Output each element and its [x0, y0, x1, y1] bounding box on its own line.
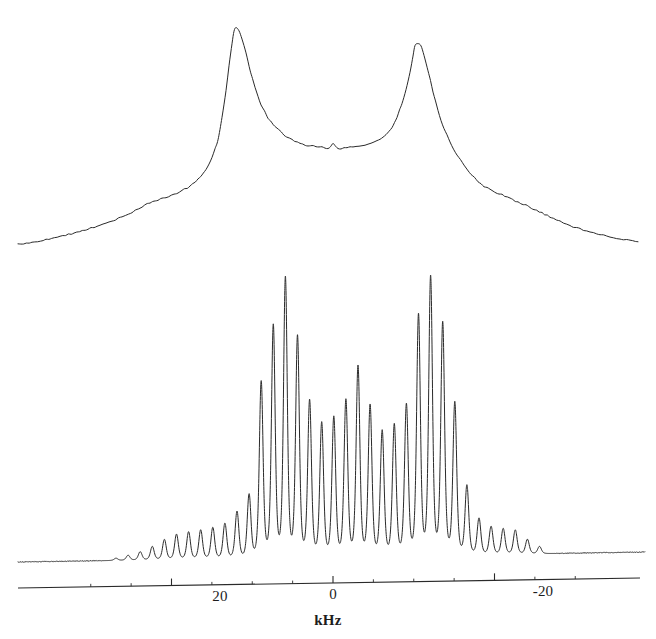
static-powder-pattern-trace — [18, 28, 638, 245]
static-powder-pattern-path — [18, 28, 638, 245]
mas-sideband-trace — [18, 275, 645, 562]
mas-sideband-path — [18, 275, 645, 562]
axis-unit-label: kHz — [314, 612, 342, 629]
axis-tick-label-neg20: -20 — [533, 583, 554, 600]
nmr-figure: 200-20 kHz — [0, 0, 656, 639]
axis-tick-label-20: 20 — [212, 588, 227, 605]
spectra-canvas — [0, 0, 656, 639]
axis-tick-label-0: 0 — [329, 586, 337, 603]
